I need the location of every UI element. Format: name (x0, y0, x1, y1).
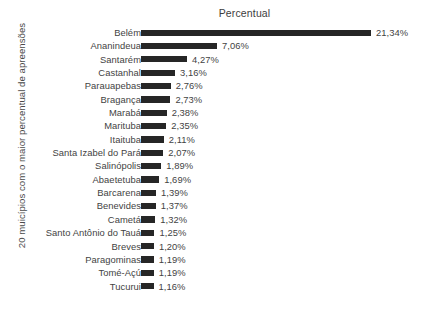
bar-track: 1,19% (141, 253, 423, 266)
bar-value-label: 1,39% (161, 186, 188, 199)
bar (141, 216, 155, 222)
bar-track: 1,20% (141, 240, 423, 253)
category-label: Bragança (0, 93, 141, 106)
bar-track: 1,69% (141, 173, 423, 186)
category-label: Castanhal (0, 66, 141, 79)
bar-value-label: 1,89% (166, 159, 193, 172)
bar (141, 150, 163, 156)
bar (141, 256, 154, 262)
category-label: Breves (0, 240, 141, 253)
bar-track: 2,11% (141, 133, 423, 146)
category-label: Santo Antônio do Tauá (0, 226, 141, 239)
category-label: Marituba (0, 119, 141, 132)
bar-row: Ananindeua7,06% (0, 39, 423, 52)
bar-row: Marituba2,35% (0, 119, 423, 132)
bar-value-label: 1,69% (164, 173, 191, 186)
bar-row: Santarém4,27% (0, 53, 423, 66)
category-label: Tucurui (0, 280, 141, 293)
plot-area: Belém21,34%Ananindeua7,06%Santarém4,27%C… (0, 26, 423, 296)
bar-value-label: 2,38% (172, 106, 199, 119)
bar-value-label: 7,06% (222, 39, 249, 52)
bar-value-label: 1,16% (159, 280, 186, 293)
bar-value-label: 2,35% (171, 119, 198, 132)
bar-value-label: 4,27% (192, 53, 219, 66)
bar (141, 176, 159, 182)
bar-track: 2,38% (141, 106, 423, 119)
bar-row: Marabá2,38% (0, 106, 423, 119)
bar-row: Breves1,20% (0, 240, 423, 253)
bar-value-label: 2,73% (175, 93, 202, 106)
category-label: Ananindeua (0, 39, 141, 52)
bar-track: 1,89% (141, 159, 423, 172)
bar-row: Castanhal3,16% (0, 66, 423, 79)
bar-track: 2,76% (141, 79, 423, 92)
bar-track: 1,25% (141, 226, 423, 239)
category-label: Santa Izabel do Pará (0, 146, 141, 159)
bar-row: Tucurui1,16% (0, 280, 423, 293)
category-label: Santarém (0, 53, 141, 66)
bar-track: 1,37% (141, 199, 423, 212)
bar-track: 1,19% (141, 266, 423, 279)
bar (141, 203, 156, 209)
bar-row: Belém21,34% (0, 26, 423, 39)
bar-track: 4,27% (141, 53, 423, 66)
bar-row: Santa Izabel do Pará2,07% (0, 146, 423, 159)
bar (141, 190, 156, 196)
bar-row: Cametá1,32% (0, 213, 423, 226)
bar-track: 21,34% (141, 26, 423, 39)
bar (141, 270, 154, 276)
bar (141, 283, 154, 289)
bar-row: Salinópolis1,89% (0, 159, 423, 172)
bar-track: 3,16% (141, 66, 423, 79)
bar (141, 30, 371, 36)
bar-row: Abaetetuba1,69% (0, 173, 423, 186)
bar (141, 123, 166, 129)
bar-value-label: 1,19% (159, 253, 186, 266)
bar-row: Parauapebas2,76% (0, 79, 423, 92)
bar-value-label: 1,37% (161, 199, 188, 212)
bar (141, 83, 171, 89)
bar-row: Benevides1,37% (0, 199, 423, 212)
bar (141, 70, 175, 76)
bar (141, 110, 167, 116)
bar-track: 2,07% (141, 146, 423, 159)
bar-value-label: 1,19% (159, 266, 186, 279)
bar-value-label: 1,20% (159, 240, 186, 253)
bar (141, 243, 154, 249)
category-label: Abaetetuba (0, 173, 141, 186)
category-label: Itaituba (0, 133, 141, 146)
bar (141, 43, 217, 49)
bar-track: 7,06% (141, 39, 423, 52)
bar (141, 136, 164, 142)
bar-row: Itaituba2,11% (0, 133, 423, 146)
bar-value-label: 2,07% (168, 146, 195, 159)
category-label: Paragominas (0, 253, 141, 266)
bar-value-label: 1,25% (159, 226, 186, 239)
category-label: Barcarena (0, 186, 141, 199)
bar-row: Santo Antônio do Tauá1,25% (0, 226, 423, 239)
bar (141, 230, 154, 236)
bar-value-label: 21,34% (376, 26, 408, 39)
category-label: Tomé-Açú (0, 266, 141, 279)
bar-value-label: 1,32% (160, 213, 187, 226)
category-label: Marabá (0, 106, 141, 119)
percentual-bar-chart: Percentual 20 muicípios com o maior perc… (0, 0, 423, 312)
bar-value-label: 2,76% (176, 79, 203, 92)
category-label: Salinópolis (0, 159, 141, 172)
bar-row: Barcarena1,39% (0, 186, 423, 199)
bar-track: 2,73% (141, 93, 423, 106)
bar-value-label: 2,11% (169, 133, 195, 146)
bar-row: Bragança2,73% (0, 93, 423, 106)
bar-row: Tomé-Açú1,19% (0, 266, 423, 279)
category-label: Parauapebas (0, 79, 141, 92)
bar-track: 2,35% (141, 119, 423, 132)
bar-track: 1,39% (141, 186, 423, 199)
bar-value-label: 3,16% (180, 66, 207, 79)
chart-title: Percentual (0, 7, 423, 19)
category-label: Cametá (0, 213, 141, 226)
bar (141, 56, 187, 62)
bar (141, 96, 170, 102)
bar-track: 1,32% (141, 213, 423, 226)
bar-row: Paragominas1,19% (0, 253, 423, 266)
bar (141, 163, 161, 169)
